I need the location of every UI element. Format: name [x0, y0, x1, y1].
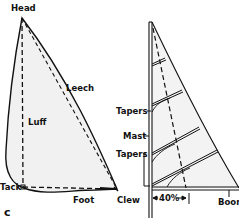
- right-sail: [143, 22, 239, 218]
- left-sail: [6, 18, 118, 192]
- label-mast: Mast: [123, 132, 146, 141]
- label-tapers-upper: Tapers: [116, 107, 148, 116]
- panel-letter: c: [4, 206, 11, 218]
- foot-tabling: [100, 188, 116, 189]
- label-luff: Luff: [28, 118, 46, 127]
- label-head: Head: [11, 4, 36, 13]
- label-percent: 40%: [159, 194, 179, 203]
- label-leech: Leech: [66, 84, 94, 93]
- label-foot: Foot: [73, 196, 94, 205]
- label-clew: Clew: [117, 196, 140, 205]
- label-tack: Tack: [0, 183, 21, 192]
- label-boom: Boom: [218, 198, 239, 207]
- label-tapers-lower: Tapers: [116, 150, 148, 159]
